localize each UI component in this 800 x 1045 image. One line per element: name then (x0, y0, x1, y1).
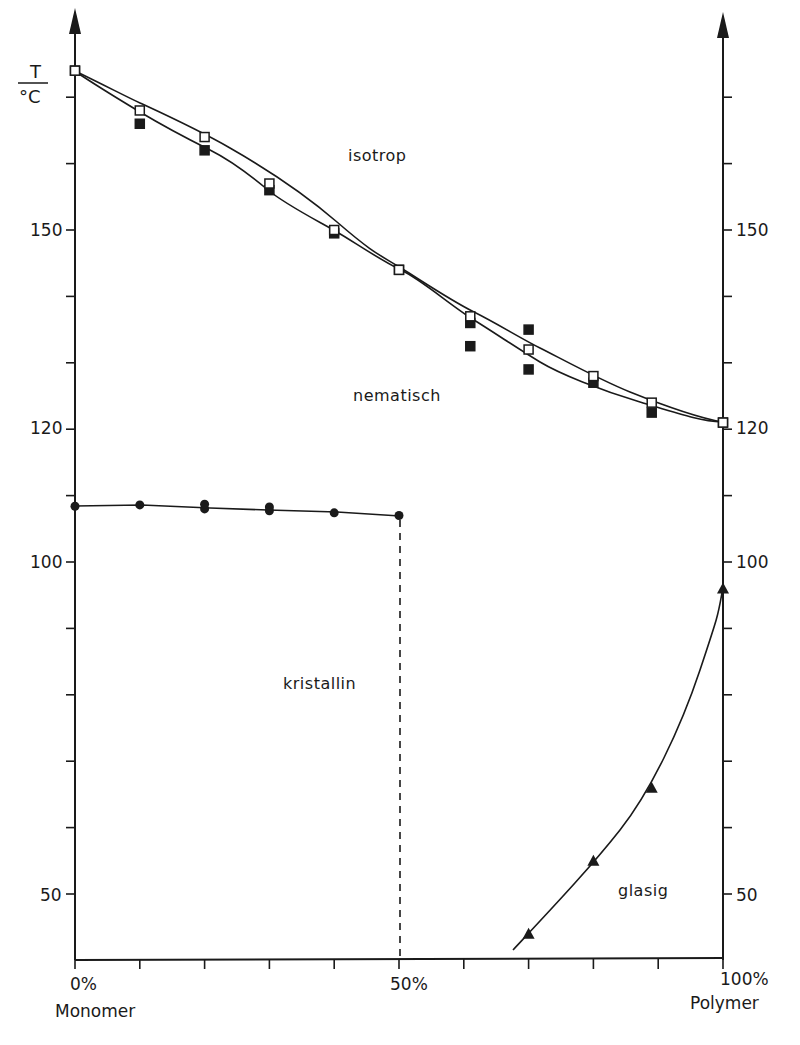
open-square-marker (589, 372, 598, 381)
open-square-marker (265, 179, 274, 188)
filled-circle-marker (71, 502, 80, 511)
y-label-left-100: 100 (30, 552, 62, 572)
left-axis-arrow-icon (69, 8, 81, 34)
open-square-marker (135, 106, 144, 115)
y-label-left-50: 50 (40, 885, 62, 905)
y-ticks (66, 97, 732, 894)
open-square-marker (200, 133, 209, 142)
y-label-left-120: 120 (30, 418, 62, 438)
phase-diagram: 150 120 100 50 150 120 100 50 T °C 0% Mo… (0, 0, 800, 1045)
axes (75, 30, 723, 960)
y-unit-top: T (29, 61, 42, 82)
y-unit-bottom: °C (19, 86, 41, 107)
y-label-left-150: 150 (30, 220, 62, 240)
x-label-100: 100% (720, 969, 769, 989)
filled-square-marker (524, 325, 533, 334)
y-label-right-100: 100 (736, 552, 768, 572)
open-square-marker (524, 345, 533, 354)
y-label-right-120: 120 (736, 418, 768, 438)
region-label-glasig: glasig (618, 881, 668, 900)
filled-circle-marker (395, 511, 404, 520)
open-square-marker (330, 226, 339, 235)
x-label-0: 0% (70, 974, 97, 994)
curve-cooling-lower (73, 70, 722, 422)
filled-square-marker (647, 408, 656, 417)
x-label-50: 50% (390, 974, 428, 994)
filled-circle-marker (200, 500, 209, 509)
filled-circle-marker (265, 502, 274, 511)
filled-circle-marker (330, 508, 339, 517)
triangle-marker (717, 583, 729, 594)
open-square-marker (395, 265, 404, 274)
x-caption-monomer: Monomer (55, 1001, 135, 1021)
y-label-right-50: 50 (736, 885, 758, 905)
region-label-kristallin: kristallin (283, 674, 356, 693)
open-square-marker (719, 418, 728, 427)
x-caption-polymer: Polymer (690, 993, 759, 1013)
filled-circle-marker (135, 500, 144, 509)
open-square-marker (71, 66, 80, 75)
filled-square-marker (466, 342, 475, 351)
filled-square-marker (524, 365, 533, 374)
open-square-marker (466, 312, 475, 321)
y-label-right-150: 150 (736, 220, 768, 240)
open-square-marker (647, 398, 656, 407)
region-label-nematisch: nematisch (353, 386, 441, 405)
region-label-isotrop: isotrop (348, 146, 407, 165)
curve-heating-upper (73, 70, 722, 422)
filled-square-marker (200, 146, 209, 155)
filled-square-marker (135, 119, 144, 128)
right-axis-arrow-icon (717, 12, 729, 38)
curve-melting (75, 505, 400, 516)
